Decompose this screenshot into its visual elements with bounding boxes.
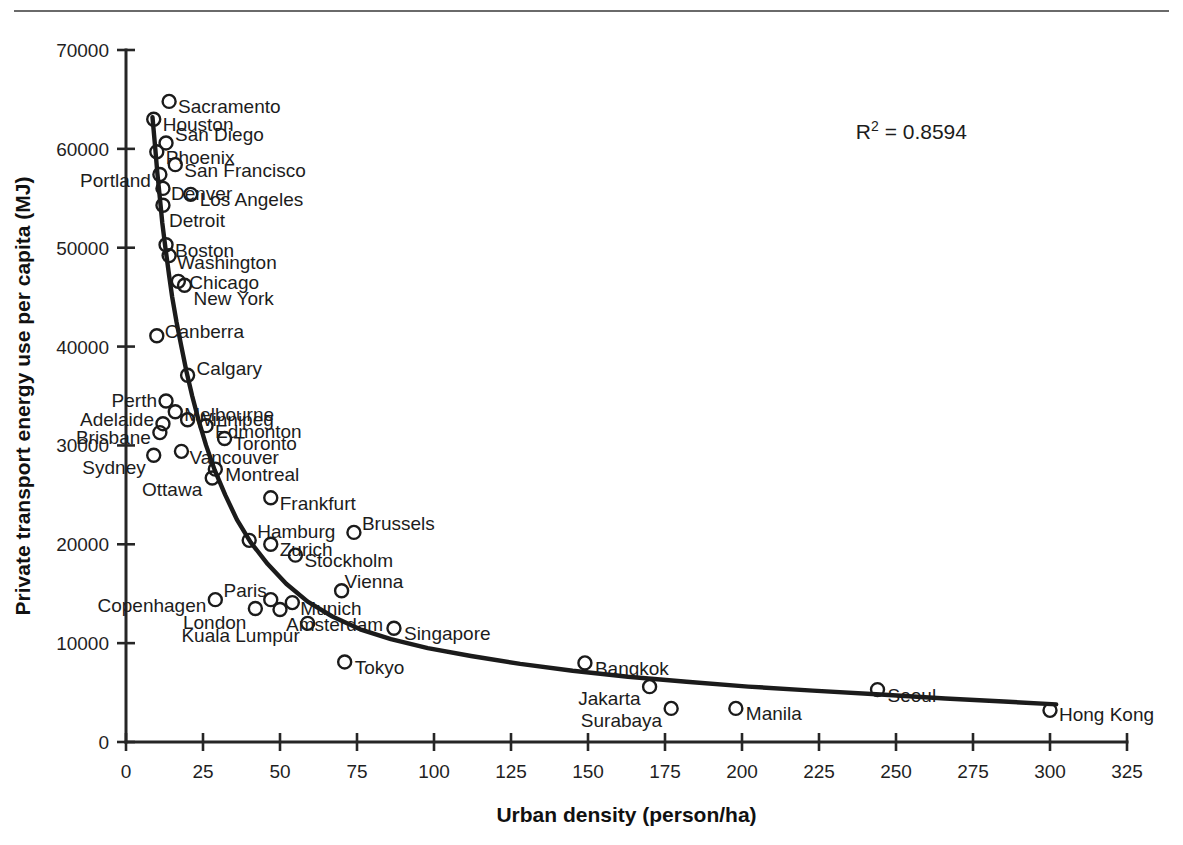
data-point: Portland (80, 168, 166, 191)
scatter-chart: 0255075100125150175200225250275300325010… (0, 0, 1183, 845)
point-marker (264, 491, 277, 504)
y-tick-label: 70000 (56, 40, 109, 61)
point-marker (347, 526, 360, 539)
point-label: Brussels (362, 513, 435, 534)
r-squared-annotation: R2 = 0.8594 (856, 118, 967, 143)
x-tick-label: 50 (269, 761, 290, 782)
point-label: Surabaya (581, 710, 663, 731)
point-marker (175, 445, 188, 458)
point-marker (729, 702, 742, 715)
point-label: Ottawa (142, 479, 203, 500)
y-axis-title: Private transport energy use per capita … (11, 177, 34, 616)
y-tick-label: 10000 (56, 633, 109, 654)
data-point: Vienna (335, 571, 404, 598)
point-marker (643, 680, 656, 693)
data-point: Los Angeles (184, 188, 303, 211)
point-label: Jakarta (578, 688, 641, 709)
point-label: Seoul (888, 685, 937, 706)
point-label: Kuala Lumpur (181, 625, 300, 646)
data-point: San Francisco (169, 158, 306, 181)
data-point: Seoul (871, 683, 936, 706)
point-marker (338, 655, 351, 668)
point-marker (387, 622, 400, 635)
data-point: Tokyo (338, 655, 404, 678)
data-point: Canberra (150, 321, 244, 343)
x-tick-label: 200 (726, 761, 758, 782)
x-tick-label: 250 (880, 761, 912, 782)
x-tick-label: 125 (495, 761, 527, 782)
data-point: Frankfurt (264, 491, 356, 514)
x-axis-ticks: 0255075100125150175200225250275300325 (121, 733, 1143, 782)
point-marker (169, 405, 182, 418)
point-marker (160, 394, 173, 407)
x-tick-label: 225 (803, 761, 835, 782)
point-label: Brisbane (76, 427, 151, 448)
point-marker (578, 656, 591, 669)
point-label: Tokyo (355, 657, 405, 678)
data-point: Paris (223, 580, 277, 607)
data-point: Jakarta (578, 680, 656, 709)
point-marker (150, 329, 163, 342)
data-point: Stockholm (289, 549, 393, 572)
point-label: Portland (80, 170, 151, 191)
point-marker (286, 596, 299, 609)
data-point: Calgary (181, 358, 262, 382)
point-label: New York (194, 288, 275, 309)
x-tick-label: 25 (192, 761, 213, 782)
point-label: Canberra (165, 321, 245, 342)
point-label: Vienna (345, 571, 404, 592)
point-label: Montreal (225, 464, 299, 485)
point-label: Calgary (197, 358, 263, 379)
x-tick-label: 325 (1111, 761, 1143, 782)
point-label: Paris (223, 580, 266, 601)
data-point: Brussels (347, 513, 434, 539)
y-tick-label: 0 (98, 732, 109, 753)
point-marker (665, 702, 678, 715)
data-point: Hong Kong (1044, 704, 1155, 726)
data-points: SacramentoHoustonSan DiegoPhoenixSan Fra… (76, 95, 1154, 731)
x-tick-label: 300 (1034, 761, 1066, 782)
x-tick-label: 0 (121, 761, 132, 782)
x-tick-label: 75 (346, 761, 367, 782)
point-label: Sydney (82, 457, 146, 478)
point-label: Frankfurt (280, 493, 357, 514)
point-marker (249, 602, 262, 615)
point-marker (209, 593, 222, 606)
point-label: Los Angeles (200, 189, 304, 210)
data-point: Ottawa (142, 472, 219, 501)
data-point: Bangkok (578, 656, 669, 679)
point-label: Bangkok (595, 658, 669, 679)
x-tick-label: 275 (957, 761, 989, 782)
point-label: Washington (177, 252, 277, 273)
point-marker (163, 95, 176, 108)
point-label: San Francisco (184, 160, 305, 181)
y-tick-label: 20000 (56, 534, 109, 555)
x-tick-label: 150 (572, 761, 604, 782)
data-point: San Diego (160, 124, 264, 150)
data-point: Manila (729, 702, 802, 725)
point-label: Detroit (169, 210, 226, 231)
point-label: Manila (746, 703, 802, 724)
x-tick-label: 175 (649, 761, 681, 782)
figure-page: 0255075100125150175200225250275300325010… (0, 0, 1183, 845)
point-label: San Diego (175, 124, 264, 145)
y-tick-label: 40000 (56, 337, 109, 358)
y-tick-label: 50000 (56, 238, 109, 259)
x-tick-label: 100 (418, 761, 450, 782)
x-axis-title: Urban density (person/ha) (496, 803, 756, 826)
data-point: Washington (163, 249, 277, 273)
point-label: Stockholm (304, 550, 393, 571)
point-label: Hong Kong (1059, 704, 1154, 725)
y-tick-label: 60000 (56, 139, 109, 160)
point-label: Singapore (404, 623, 491, 644)
point-marker (274, 603, 287, 616)
point-marker (147, 449, 160, 462)
